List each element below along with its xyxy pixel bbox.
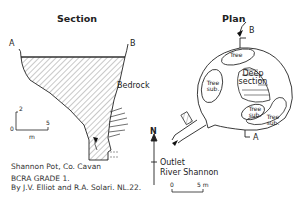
section-scale-vertical-tick: 2 xyxy=(19,106,23,112)
plan-scale-bar xyxy=(172,189,203,192)
bedrock-label: Bedrock xyxy=(117,82,150,90)
river-label: River Shannon xyxy=(160,169,218,177)
outlet-label: Outlet xyxy=(160,159,185,167)
north-label: N xyxy=(150,128,157,136)
caption-grade: BCRA GRADE 1. xyxy=(11,175,70,183)
area-label-tree: Tree xyxy=(230,52,243,58)
section-scale-horizontal-tick: 5 xyxy=(46,120,50,126)
plan-scale-start: 0 xyxy=(170,182,174,188)
section-profile xyxy=(19,44,128,160)
section-label-a: A xyxy=(9,40,14,48)
caption-site: Shannon Pot, Co. Cavan xyxy=(11,163,101,171)
section-title: Section xyxy=(57,14,97,24)
plan-scale-end: 5 m xyxy=(197,182,209,188)
caption-credit: By J.V. Elliot and R.A. Solari. NL.22. xyxy=(11,184,141,192)
area-label-tree-sub-1: Tree sub. xyxy=(203,80,223,92)
section-scale-bar xyxy=(16,112,48,130)
plan-label-a: A xyxy=(253,134,258,142)
outlet-arrow xyxy=(172,140,178,146)
area-label-deep-section: Deep section xyxy=(235,70,271,86)
north-arrow xyxy=(151,134,157,185)
boulder xyxy=(181,112,193,125)
section-scale-unit: m xyxy=(29,134,35,140)
section-scale-origin: 0 xyxy=(10,126,14,132)
plan-label-b: B xyxy=(249,27,255,35)
section-label-b: B xyxy=(130,40,136,48)
plan-title: Plan xyxy=(222,14,245,24)
water-level xyxy=(110,152,118,157)
area-label-tree-sub-3: Tree sub. xyxy=(262,114,284,126)
